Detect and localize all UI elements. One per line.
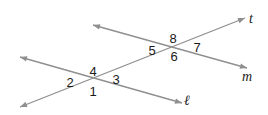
arrowhead-icon [20, 56, 27, 61]
line-label-t: t [249, 11, 254, 26]
angle-label-1: 1 [89, 84, 96, 99]
angle-label-3: 3 [112, 72, 119, 87]
lines-layer [20, 18, 247, 107]
arrowhead-icon [240, 63, 247, 68]
angle-label-5: 5 [148, 43, 155, 58]
angle-label-8: 8 [169, 31, 176, 46]
angle-label-2: 2 [66, 75, 73, 90]
line-t-segment [20, 18, 245, 107]
arrowhead-icon [93, 24, 100, 29]
transversal-diagram: tmℓ12345678 [0, 0, 268, 115]
angle-label-7: 7 [193, 40, 200, 55]
arrowhead-icon [20, 102, 28, 107]
line-label-m: m [242, 69, 252, 84]
arrowhead-icon [175, 98, 182, 103]
line-l-segment [20, 57, 182, 103]
angle-label-6: 6 [170, 49, 177, 64]
arrowhead-icon [237, 18, 245, 23]
angle-label-4: 4 [89, 64, 96, 79]
line-label-l: ℓ [184, 93, 190, 108]
line-l [20, 56, 182, 104]
line-t [20, 18, 245, 107]
